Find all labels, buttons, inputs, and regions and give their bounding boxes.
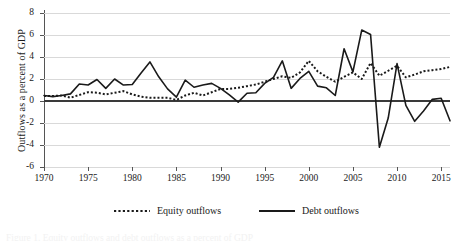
x-axis-tick-label: 1970 <box>24 173 64 183</box>
x-axis-tick-label: 1990 <box>201 173 241 183</box>
x-axis-tick-label: 1995 <box>245 173 285 183</box>
series-line-debt-outflows <box>44 30 450 147</box>
solid-line-key-icon <box>258 206 296 216</box>
y-axis-tick-label: 4 <box>8 52 34 62</box>
legend-item-equity-outflows: Equity outflows <box>113 203 221 219</box>
legend-label-debt-outflows: Debt outflows <box>302 206 359 216</box>
gridline <box>44 167 450 168</box>
legend-item-debt-outflows: Debt outflows <box>258 203 359 219</box>
x-axis-tick <box>176 167 177 171</box>
x-axis-tick <box>221 167 222 171</box>
dotted-line-key-icon <box>113 206 151 216</box>
x-axis-tick-label: 1975 <box>68 173 108 183</box>
y-axis-tick-label: -2 <box>8 118 34 128</box>
figure-caption: Figure 1. Equity outflows and debt outfl… <box>6 233 436 241</box>
x-axis-tick <box>44 167 45 171</box>
x-axis-tick <box>353 167 354 171</box>
x-axis-tick <box>88 167 89 171</box>
x-axis-tick-label: 2015 <box>421 173 455 183</box>
x-axis-tick-label: 1980 <box>112 173 152 183</box>
y-axis-tick-label: -6 <box>8 162 34 172</box>
x-axis-tick-label: 1985 <box>156 173 196 183</box>
plot-area <box>44 13 450 167</box>
y-axis-tick-label: 0 <box>8 96 34 106</box>
x-axis-tick-label: 2005 <box>333 173 373 183</box>
y-axis-tick-label: 2 <box>8 74 34 84</box>
x-axis-tick <box>265 167 266 171</box>
legend-label-equity-outflows: Equity outflows <box>157 206 221 216</box>
y-axis-tick-label: -4 <box>8 140 34 150</box>
y-axis-tick-label: 8 <box>8 8 34 18</box>
x-axis-tick-label: 2010 <box>377 173 417 183</box>
series-lines <box>44 13 450 167</box>
x-axis-tick-label: 2000 <box>289 173 329 183</box>
y-axis-tick-label: 6 <box>8 30 34 40</box>
x-axis-tick <box>397 167 398 171</box>
x-axis-tick <box>132 167 133 171</box>
figure: Outflows as a percent of GDP 86420-2-4-6… <box>0 0 455 241</box>
x-axis-tick <box>309 167 310 171</box>
legend: Equity outflows Debt outflows <box>0 203 455 221</box>
x-axis-tick <box>441 167 442 171</box>
